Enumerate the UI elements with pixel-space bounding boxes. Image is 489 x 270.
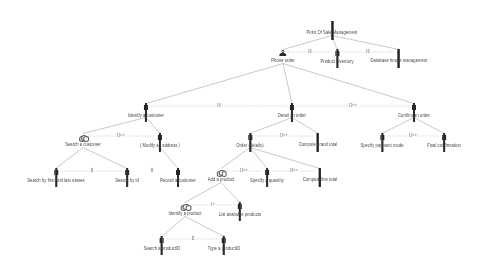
task-node-detailorder[interactable]: Detail an order [278, 104, 306, 118]
cloud-icon [208, 169, 235, 176]
task-node-label: Identify a product [169, 210, 202, 216]
task-node-label: Compute grand total [299, 142, 338, 148]
form-icon [398, 104, 430, 112]
form-icon [236, 134, 263, 142]
edge-phone-to-detailorder [283, 64, 292, 104]
edge-modaddr-to-reccust [160, 148, 178, 169]
temporal-operator-op-qty-line: []>> [289, 167, 299, 172]
edge-phone-to-confirm [283, 64, 414, 104]
form-icon [278, 104, 306, 112]
task-node-label: Search by id [115, 177, 139, 183]
application-icon [371, 50, 428, 57]
form-icon [140, 134, 180, 142]
task-node-searchpid[interactable]: Search a productID [144, 237, 181, 251]
task-node-modaddr[interactable]: ( Modify an address ) [140, 134, 180, 148]
edge-orderdet-to-specqty [250, 148, 267, 169]
temporal-operator-op-phone-inventory: ||| [307, 48, 313, 53]
task-node-identprod[interactable]: Identify a product [169, 203, 202, 216]
task-node-reccust[interactable]: Record a customer [160, 169, 196, 183]
form-icon [219, 203, 261, 211]
task-node-label: Confirm an order [398, 112, 430, 118]
task-node-addprod[interactable]: Add a product [208, 169, 235, 182]
form-icon [208, 237, 240, 245]
temporal-operator-op-inventory-warehouse: ||| [365, 48, 371, 53]
task-node-label: Compute line total [303, 177, 337, 183]
cloud-icon [65, 134, 101, 141]
task-node-listprod[interactable]: List available products [219, 203, 261, 217]
task-node-specqty[interactable]: Specify a quantity [250, 169, 284, 183]
task-node-label: Final confirmation [427, 142, 461, 148]
task-node-label: Add a product [208, 176, 235, 182]
task-node-label: Order (details) [236, 142, 263, 148]
edge-addprod-to-identprod [185, 183, 221, 203]
task-node-typepid[interactable]: Type a productID [208, 237, 240, 251]
task-node-label: Phone order [271, 58, 294, 64]
edge-identcust-to-modaddr [146, 118, 160, 134]
task-node-label: Point Of Sale Management [306, 30, 357, 36]
edge-orderdet-to-addprod [221, 148, 250, 169]
task-node-phone[interactable]: Phone order [271, 50, 294, 63]
task-node-label: Search a productID [144, 245, 181, 251]
task-node-warehouse[interactable]: Database house management [371, 50, 428, 63]
edge-searchcust-to-searchid [83, 148, 127, 169]
temporal-operator-op-add-qty: []>> [239, 167, 249, 172]
task-node-grandtotal[interactable]: Compute grand total [299, 134, 338, 147]
form-icon [320, 50, 353, 58]
task-node-finalconf[interactable]: Final confirmation [427, 134, 461, 148]
temporal-operator-op-orderdet-total: []>> [279, 132, 289, 137]
task-node-label: Product inventory [320, 58, 353, 64]
form-icon [160, 169, 196, 177]
temporal-operator-op-spid-tpid: [] [191, 235, 196, 240]
task-node-linetotal[interactable]: Compute line total [303, 169, 337, 182]
temporal-operator-op-ident-list: |> [210, 201, 216, 206]
edge-detailorder-to-grandtotal [292, 118, 318, 134]
form-icon [128, 104, 164, 112]
application-icon [299, 134, 338, 141]
form-icon [360, 134, 403, 142]
task-node-searchid[interactable]: Search by id [115, 169, 139, 183]
task-node-label: Search by first and last names [27, 177, 84, 183]
form-icon [250, 169, 284, 177]
application-icon [303, 169, 337, 176]
task-node-confirm[interactable]: Confirm an order [398, 104, 430, 118]
task-node-label: Database house management [371, 58, 428, 64]
task-node-root[interactable]: Point Of Sale Management [306, 22, 357, 35]
task-node-label: Record a customer [160, 177, 196, 183]
edge-identprod-to-typepid [185, 217, 224, 237]
edge-identprod-to-searchpid [162, 217, 185, 237]
temporal-operator-op-paymode-final: []>> [408, 132, 418, 137]
temporal-operator-op-id-record: [] [150, 167, 155, 172]
temporal-operator-op-ident-detail: ||| [216, 102, 222, 107]
task-node-label: Search a customer [65, 141, 101, 147]
task-node-label: List available products [219, 211, 261, 217]
task-node-inventory[interactable]: Product inventory [320, 50, 353, 64]
edge-addprod-to-listprod [221, 183, 240, 203]
form-icon [27, 169, 84, 177]
task-node-identcust[interactable]: Identify a customer [128, 104, 164, 118]
temporal-operator-op-search-modaddr: []>> [116, 132, 126, 137]
task-node-searchcust[interactable]: Search a customer [65, 134, 101, 147]
task-node-label: Specify a quantity [250, 177, 284, 183]
form-icon [427, 134, 461, 142]
task-node-searchname[interactable]: Search by first and last names [27, 169, 84, 183]
user-icon [271, 50, 294, 57]
task-node-label: Detail an order [278, 112, 306, 118]
form-icon [144, 237, 181, 245]
edge-phone-to-identcust [146, 64, 283, 104]
task-node-paymode[interactable]: Specify payment mode [360, 134, 403, 148]
form-icon [115, 169, 139, 177]
application-icon [306, 22, 357, 29]
task-node-label: Specify payment mode [360, 142, 403, 148]
edge-confirm-to-finalconf [414, 118, 444, 134]
edge-orderdet-to-linetotal [250, 148, 320, 169]
task-node-label: Identify a customer [128, 112, 164, 118]
edge-identcust-to-searchcust [83, 118, 146, 134]
task-node-label: Type a productID [208, 245, 240, 251]
temporal-operator-op-detail-confirm: []>> [348, 102, 358, 107]
cloud-icon [169, 203, 202, 210]
task-model-diagram: Point Of Sale ManagementPhone orderProdu… [0, 0, 489, 270]
task-node-orderdet[interactable]: Order (details) [236, 134, 263, 148]
task-node-label: ( Modify an address ) [140, 142, 180, 148]
edge-searchcust-to-searchname [56, 148, 83, 169]
temporal-operator-op-name-id: [] [90, 167, 95, 172]
